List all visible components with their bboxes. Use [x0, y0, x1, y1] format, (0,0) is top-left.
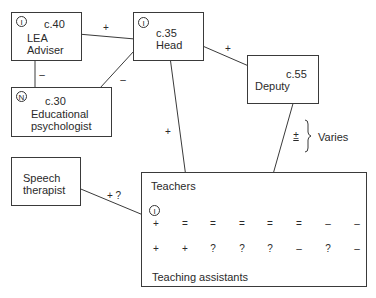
teachers-label: Teachers: [151, 180, 196, 192]
speech-label-2: therapist: [23, 184, 65, 196]
speech-label-1: Speech: [23, 172, 60, 184]
edpsych-age: c.30: [45, 95, 66, 107]
informal-badge-icon: I: [149, 205, 160, 216]
ta-label: Teaching assistants: [152, 271, 248, 283]
edge-label-edpsych-head: –: [117, 75, 129, 85]
edpsych-label-2: psychologist: [31, 120, 92, 132]
edge-label-lea-edpsych: –: [36, 70, 48, 80]
edge-label-lea-head: +: [100, 23, 112, 33]
teacher-rating: =: [264, 219, 276, 229]
edpsych-label-1: Educational: [31, 108, 89, 120]
teacher-rating: =: [207, 219, 219, 229]
teacher-rating: –: [322, 219, 334, 229]
teacher-rating: =: [179, 219, 191, 229]
informal-badge-icon: I: [138, 17, 149, 28]
ta-rating: ?: [207, 244, 219, 254]
lea-age: c.40: [44, 18, 65, 30]
ta-rating: +: [179, 244, 191, 254]
neutral-badge-icon: N: [16, 91, 27, 102]
ta-rating: –: [293, 244, 305, 254]
teacher-rating: =: [236, 219, 248, 229]
ta-rating: ?: [322, 244, 334, 254]
lea-label-1: LEA: [27, 32, 48, 44]
teacher-rating: +: [150, 219, 162, 229]
teacher-rating: –: [351, 219, 363, 229]
ta-rating: ?: [264, 244, 276, 254]
ta-rating: –: [351, 244, 363, 254]
ta-rating: ?: [236, 244, 248, 254]
deputy-label: Deputy: [255, 80, 290, 92]
head-age: c.35: [156, 27, 177, 39]
edge-label-head-teachers: +: [162, 127, 174, 137]
edge-label-speech-teachers: + ?: [107, 190, 121, 202]
edge-label-deputy-teachers: ±: [290, 131, 302, 141]
varies-label: Varies: [318, 131, 348, 143]
edge-label-head-deputy: +: [222, 44, 234, 54]
head-label: Head: [156, 39, 182, 51]
informal-badge-icon: I: [16, 16, 27, 27]
ta-rating: +: [150, 244, 162, 254]
teacher-rating: =: [293, 219, 305, 229]
deputy-age: c.55: [286, 68, 307, 80]
lea-label-2: Adviser: [27, 44, 64, 56]
